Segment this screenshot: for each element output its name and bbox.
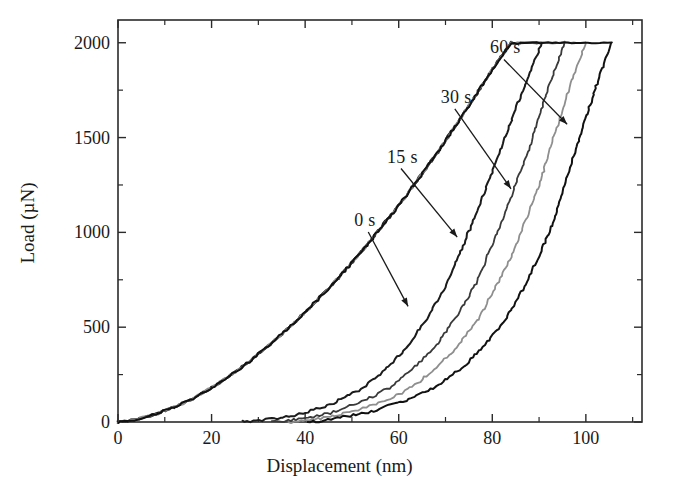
x-tick-label: 0 [114,428,123,449]
x-tick-label: 20 [203,428,221,449]
y-axis-title: Load (µN) [17,133,39,313]
annotation-leader-line [401,169,457,238]
chart-figure: Displacement (nm) Load (µN) 020406080100… [0,0,679,500]
x-tick-label: 60 [390,428,408,449]
y-tick-label: 1500 [52,127,110,148]
series-30-s [118,42,586,423]
y-tick-label: 0 [52,412,110,433]
series-0-s [118,42,542,422]
data-series-group [118,42,612,424]
x-tick-label: 40 [296,428,314,449]
annotation-arrowhead [401,297,408,306]
x-axis-title: Displacement (nm) [0,455,679,477]
axis-ticks [118,20,642,422]
annotation-label-60s: 60 s [490,37,521,58]
y-tick-label: 2000 [52,32,110,53]
annotation-label-30s: 30 s [441,87,472,108]
y-tick-label: 500 [52,317,110,338]
annotation-label-0s: 0 s [354,210,375,231]
series-15-s [118,42,564,422]
annotation-leader-line [455,109,511,189]
x-tick-label: 80 [483,428,501,449]
annotation-label-15s: 15 s [387,147,418,168]
annotation-leader-line [368,232,408,306]
annotation-arrowhead [504,180,511,189]
plot-frame [118,20,642,422]
x-tick-label: 100 [572,428,599,449]
series-60-s [118,42,612,423]
y-tick-label: 1000 [52,222,110,243]
